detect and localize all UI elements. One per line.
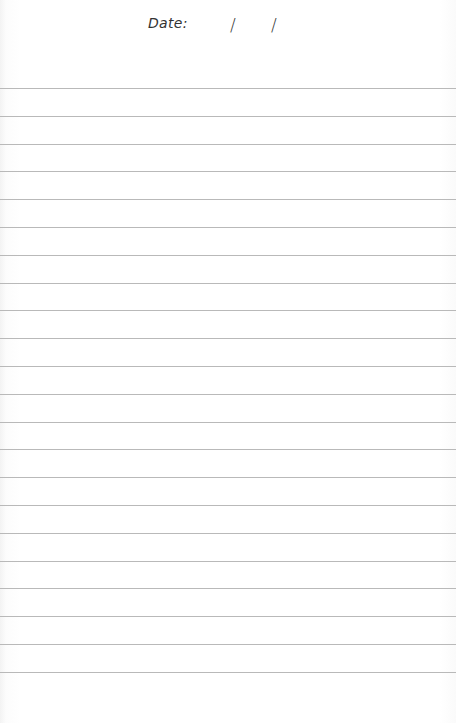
ruled-line [0,199,456,200]
ruled-line [0,477,456,478]
ruled-line [0,171,456,172]
notebook-page: Date: / / [0,0,456,723]
date-separator-2: / [271,15,277,35]
ruled-line [0,533,456,534]
ruled-line [0,672,456,673]
date-field: Date: / / [148,13,288,39]
ruled-line [0,505,456,506]
ruled-line [0,227,456,228]
ruled-line [0,283,456,284]
ruled-line [0,88,456,89]
ruled-line [0,449,456,450]
ruled-line [0,144,456,145]
ruled-line [0,644,456,645]
ruled-line [0,561,456,562]
date-separator-1: / [230,15,236,35]
ruled-line [0,616,456,617]
ruled-line [0,588,456,589]
ruled-line [0,422,456,423]
ruled-line [0,310,456,311]
ruled-line [0,366,456,367]
ruled-line [0,116,456,117]
ruled-line [0,255,456,256]
date-label: Date: [148,15,188,31]
ruled-line [0,394,456,395]
ruled-line [0,338,456,339]
